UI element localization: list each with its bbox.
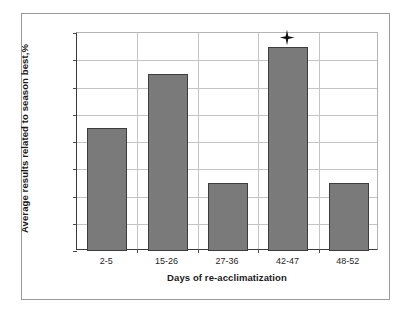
y-axis-tick bbox=[73, 251, 77, 252]
x-axis-tick bbox=[198, 249, 199, 253]
bar bbox=[87, 128, 127, 251]
y-axis-title: Average results related to season best,% bbox=[19, 29, 30, 249]
x-gridline bbox=[137, 33, 138, 249]
bar bbox=[329, 183, 369, 251]
bar bbox=[148, 74, 188, 251]
y-axis-tick bbox=[73, 60, 77, 61]
y-axis-tick bbox=[73, 115, 77, 116]
x-axis-tick bbox=[137, 249, 138, 253]
x-axis-tick-label: 42-47 bbox=[257, 256, 317, 266]
x-gridline bbox=[319, 33, 320, 249]
x-axis-title: Days of re-acclimatization bbox=[76, 272, 378, 283]
x-axis-tick-label: 15-26 bbox=[137, 256, 197, 266]
y-axis-tick bbox=[73, 33, 77, 34]
y-gridline bbox=[77, 60, 377, 61]
bar bbox=[268, 47, 308, 251]
y-axis-tick bbox=[73, 142, 77, 143]
x-axis-tick bbox=[319, 249, 320, 253]
y-axis-tick bbox=[73, 88, 77, 89]
x-gridline bbox=[258, 33, 259, 249]
chart-figure: Average results related to season best,%… bbox=[0, 0, 404, 315]
y-axis-tick bbox=[73, 224, 77, 225]
plot-area: 98.298.498.698.89999.299.499.699.8 bbox=[76, 32, 378, 250]
y-gridline bbox=[77, 115, 377, 116]
y-gridline bbox=[77, 88, 377, 89]
bar bbox=[208, 183, 248, 251]
x-gridline bbox=[198, 33, 199, 249]
y-axis-tick bbox=[73, 197, 77, 198]
y-axis-tick bbox=[73, 169, 77, 170]
x-axis-tick-label: 27-36 bbox=[197, 256, 257, 266]
x-axis-tick-label: 2-5 bbox=[76, 256, 136, 266]
x-axis-tick-label: 48-52 bbox=[318, 256, 378, 266]
x-axis-tick bbox=[258, 249, 259, 253]
